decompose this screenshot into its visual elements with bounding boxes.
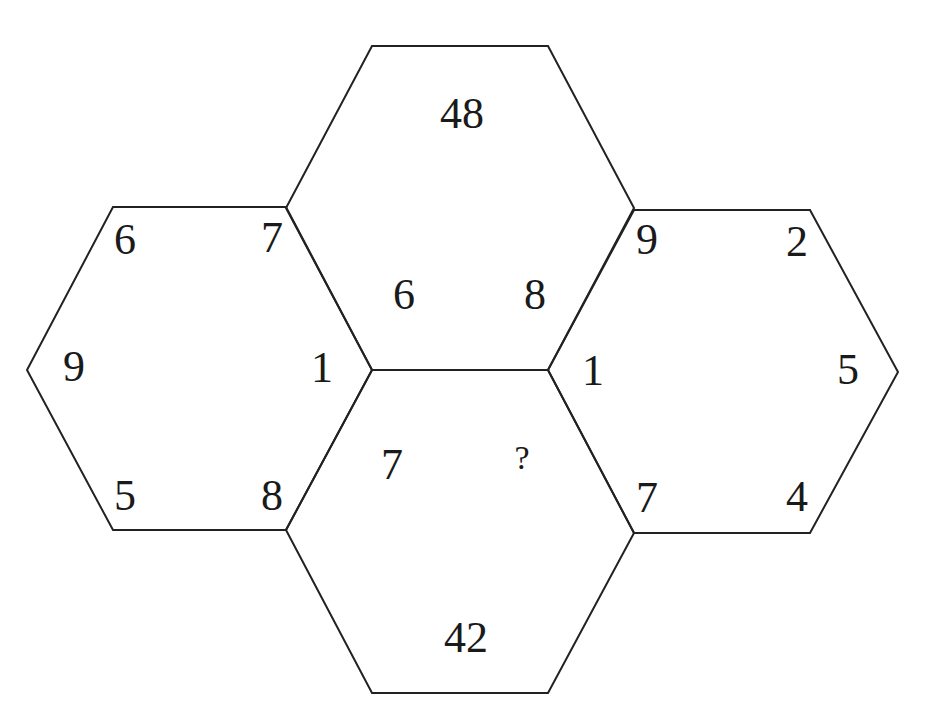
left-hex-middle-right: 1 (311, 346, 333, 390)
left-hex-top-right: 7 (261, 216, 283, 260)
top-hex-inner-left: 6 (393, 273, 415, 317)
right-hex-bottom-right: 4 (786, 475, 808, 519)
top-hex-inner-right: 8 (524, 273, 546, 317)
left-hex-middle-left: 9 (63, 345, 85, 389)
right-hex-top-right: 2 (786, 220, 808, 264)
right-hex-bottom-left: 7 (636, 476, 658, 520)
left-hex-bottom-left: 5 (114, 474, 136, 518)
bottom-hex-inner-left: 7 (381, 443, 403, 487)
right-hex-top-left: 9 (636, 218, 658, 262)
bottom-hex-total: 42 (444, 616, 488, 660)
left-hex-top-left: 6 (114, 218, 136, 262)
hexagon-puzzle: 48 6 8 7 ? 42 6 7 9 1 5 8 9 2 1 5 7 4 (0, 0, 931, 709)
top-hex-total: 48 (440, 92, 484, 136)
right-hex-middle-left: 1 (582, 349, 604, 393)
right-hex-middle-right: 5 (837, 348, 859, 392)
left-hex-bottom-right: 8 (261, 474, 283, 518)
bottom-hex-missing-value: ? (514, 441, 529, 475)
